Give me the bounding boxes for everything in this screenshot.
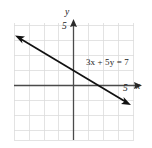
y-axis	[70, 19, 77, 140]
graph-figure: 3x + 5y = 7 y 5 5 x	[0, 0, 152, 148]
x-axis-tick-5: 5	[123, 83, 128, 93]
y-axis-tick-5: 5	[62, 21, 67, 31]
y-axis-label: y	[65, 7, 69, 17]
equation-label: 3x + 5y = 7	[86, 57, 129, 67]
x-axis-label: x	[136, 81, 140, 91]
coordinate-plane-svg	[0, 0, 152, 148]
